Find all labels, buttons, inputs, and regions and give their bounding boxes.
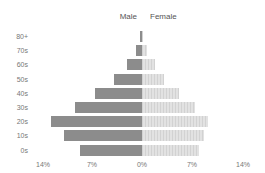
x-axis-tick: 14% xyxy=(36,160,50,169)
bar-female xyxy=(142,88,179,99)
pyramid-row: 40s xyxy=(0,88,265,99)
pyramid-row: 20s xyxy=(0,116,265,127)
x-axis-tick: 7% xyxy=(87,160,97,169)
bar-male xyxy=(64,130,142,141)
bar-female xyxy=(142,45,147,56)
age-group-label: 80+ xyxy=(16,31,28,42)
bar-male xyxy=(114,74,142,85)
age-group-label: 60s xyxy=(17,59,28,70)
bar-female xyxy=(142,145,199,156)
pyramid-row: 60s xyxy=(0,59,265,70)
pyramid-row: 0s xyxy=(0,145,265,156)
bar-female xyxy=(142,130,204,141)
bar-female xyxy=(142,116,208,127)
pyramid-row: 30s xyxy=(0,102,265,113)
bar-male xyxy=(80,145,142,156)
pyramid-row: 10s xyxy=(0,130,265,141)
age-group-label: 20s xyxy=(17,116,28,127)
age-group-label: 70s xyxy=(17,45,28,56)
bar-female xyxy=(142,74,164,85)
x-axis-tick: 0% xyxy=(137,160,147,169)
bar-male xyxy=(51,116,142,127)
bar-female xyxy=(142,59,155,70)
bar-female xyxy=(142,31,143,42)
x-axis-tick: 14% xyxy=(236,160,250,169)
legend-female: Female xyxy=(150,12,177,22)
age-group-label: 0s xyxy=(21,145,28,156)
legend-male: Male xyxy=(120,12,137,22)
age-group-label: 50s xyxy=(17,74,28,85)
pyramid-row: 70s xyxy=(0,45,265,56)
x-axis-tick: 7% xyxy=(187,160,197,169)
bar-male xyxy=(127,59,142,70)
bar-female xyxy=(142,102,195,113)
bar-male xyxy=(75,102,142,113)
age-group-label: 10s xyxy=(17,130,28,141)
pyramid-row: 50s xyxy=(0,74,265,85)
pyramid-row: 80+ xyxy=(0,31,265,42)
age-group-label: 40s xyxy=(17,88,28,99)
bar-male xyxy=(95,88,142,99)
age-group-label: 30s xyxy=(17,102,28,113)
